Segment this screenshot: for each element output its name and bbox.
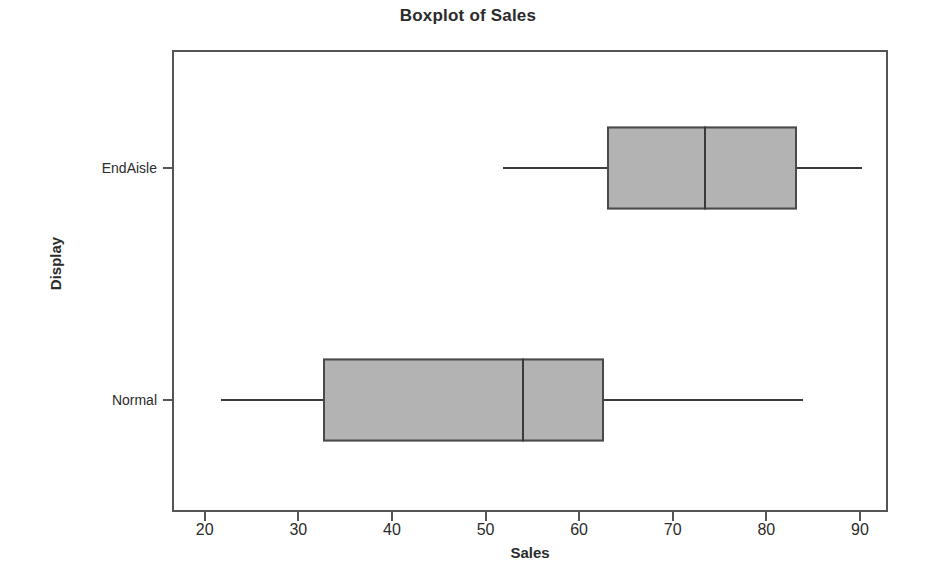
y-tick-label-normal: Normal: [23, 392, 157, 408]
box-rect-normal: [323, 359, 605, 442]
median-line-normal: [522, 359, 524, 442]
x-axis-title: Sales: [172, 544, 888, 561]
x-tick-60: [578, 512, 580, 521]
whisker-low-normal: [221, 399, 323, 401]
x-tick-90: [859, 512, 861, 521]
x-tick-label-80: 80: [736, 521, 796, 539]
boxplot-chart: Boxplot of Sales 2030405060708090 EndAis…: [0, 0, 936, 572]
x-tick-70: [672, 512, 674, 521]
y-tick-normal: [163, 399, 172, 401]
whisker-high-normal: [604, 399, 802, 401]
x-tick-label-40: 40: [362, 521, 422, 539]
y-tick-label-endaisle: EndAisle: [23, 160, 157, 176]
whisker-high-endaisle: [797, 167, 862, 169]
x-tick-40: [391, 512, 393, 521]
median-line-endaisle: [704, 127, 706, 210]
x-tick-label-60: 60: [549, 521, 609, 539]
x-tick-label-30: 30: [268, 521, 328, 539]
y-tick-endaisle: [163, 167, 172, 169]
x-tick-label-90: 90: [830, 521, 890, 539]
x-tick-label-20: 20: [175, 521, 235, 539]
whisker-low-endaisle: [503, 167, 607, 169]
box-rect-endaisle: [607, 127, 797, 210]
y-axis-title: Display: [47, 204, 64, 324]
x-tick-label-50: 50: [456, 521, 516, 539]
chart-title: Boxplot of Sales: [0, 6, 936, 26]
x-tick-30: [297, 512, 299, 521]
x-tick-label-70: 70: [643, 521, 703, 539]
x-tick-50: [485, 512, 487, 521]
x-tick-80: [765, 512, 767, 521]
plot-area: [172, 50, 888, 512]
x-tick-20: [204, 512, 206, 521]
